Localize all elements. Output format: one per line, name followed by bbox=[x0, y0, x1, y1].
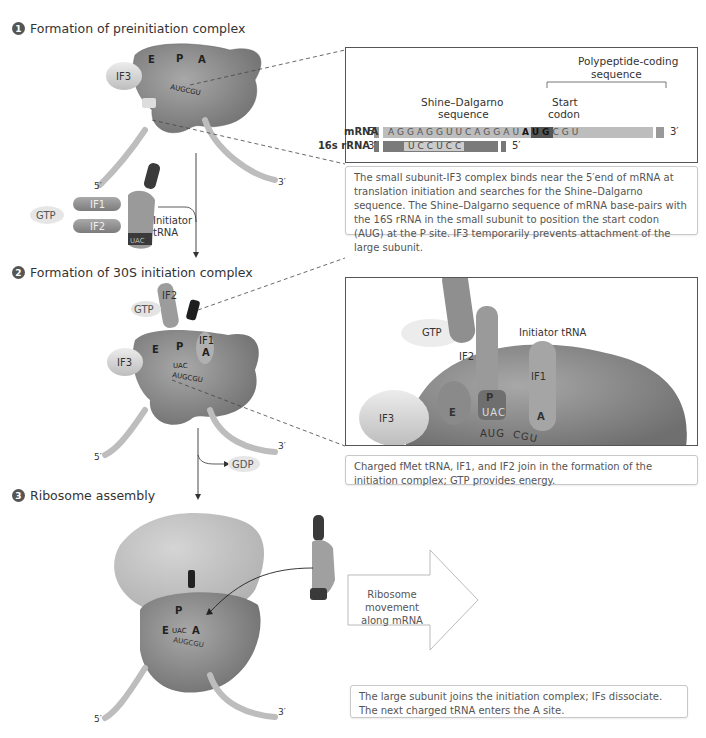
svg-text:5′: 5′ bbox=[94, 714, 102, 724]
inset-anticodon: UAC bbox=[482, 407, 506, 418]
inset-if1-label: IF1 bbox=[531, 371, 546, 382]
svg-text:GDP: GDP bbox=[232, 459, 253, 470]
inset-a-site: A bbox=[537, 411, 545, 422]
svg-text:E: E bbox=[152, 344, 159, 355]
inset-p-site: P bbox=[486, 392, 493, 403]
svg-text:5′: 5′ bbox=[94, 452, 102, 462]
svg-text:P: P bbox=[176, 341, 183, 352]
step-number-badge: 2 bbox=[12, 266, 25, 279]
start-codon-label-2: codon bbox=[548, 108, 580, 120]
svg-text:GTP: GTP bbox=[134, 304, 154, 315]
svg-text:IF2: IF2 bbox=[90, 221, 105, 232]
inset-gtp-label: GTP bbox=[422, 327, 442, 338]
svg-text:GTP: GTP bbox=[36, 210, 56, 221]
svg-text:UAC: UAC bbox=[130, 237, 145, 245]
polypeptide-label: Polypeptide-coding bbox=[578, 55, 678, 67]
step2-caption: Charged fMet tRNA, IF1, and IF2 join in … bbox=[345, 455, 698, 485]
svg-text:tRNA: tRNA bbox=[153, 227, 178, 238]
step-number-badge: 3 bbox=[12, 489, 25, 502]
svg-text:UAC: UAC bbox=[172, 627, 187, 635]
svg-text:5′: 5′ bbox=[94, 181, 102, 191]
svg-text:3′: 3′ bbox=[278, 177, 286, 187]
svg-text:A: A bbox=[198, 54, 206, 65]
step1-ribosome: IF3 E P A AUGCGU 5′ 3′ bbox=[94, 44, 286, 191]
svg-text:A: A bbox=[202, 347, 210, 358]
rrna-label: 16s rRNA bbox=[344, 140, 370, 151]
step3-caption: The large subunit joins the initiation c… bbox=[350, 685, 688, 718]
mrna-sequence: AGGAGGUUCAGGAUAUGCGU bbox=[388, 127, 581, 137]
svg-text:UAC: UAC bbox=[173, 362, 188, 370]
inset-e-site: E bbox=[449, 407, 456, 418]
inset-initiator-label: Initiator tRNA bbox=[519, 327, 586, 338]
svg-text:E: E bbox=[162, 625, 169, 636]
shine-dalgarno-label-2: sequence bbox=[438, 108, 489, 120]
svg-text:E: E bbox=[148, 54, 155, 65]
step-2-title: 2 Formation of 30S initiation complex bbox=[12, 265, 253, 280]
rrna-5-prime: 5′ bbox=[512, 140, 521, 151]
ribosome-movement-label: Ribosome movement along mRNA bbox=[352, 588, 432, 627]
polypeptide-label-2: sequence bbox=[589, 68, 644, 80]
svg-text:Initiator: Initiator bbox=[153, 215, 193, 226]
step-3-title: 3 Ribosome assembly bbox=[12, 488, 155, 503]
mrna-3-prime: 3′ bbox=[670, 126, 679, 137]
step2-inset-panel: GTP IF2 Initiator tRNA IF1 IF3 E P A UAC… bbox=[345, 277, 698, 446]
step-title-text: Formation of 30S initiation complex bbox=[30, 265, 253, 280]
svg-text:P: P bbox=[175, 605, 182, 616]
step-title-text: Ribosome assembly bbox=[30, 488, 155, 503]
inset-if2-label: IF2 bbox=[459, 351, 474, 362]
svg-text:IF1: IF1 bbox=[90, 199, 105, 210]
step1-caption: The small subunit-IF3 complex binds near… bbox=[345, 166, 698, 235]
svg-text:3′: 3′ bbox=[278, 441, 286, 451]
step3-ribosome: P E A UAC AUGCGU 5′ 3′ bbox=[94, 513, 335, 724]
rrna-sequence: UCCUCC bbox=[408, 141, 464, 151]
svg-text:3′: 3′ bbox=[278, 707, 286, 717]
inset-if3-label: IF3 bbox=[379, 413, 394, 424]
svg-text:A: A bbox=[192, 625, 200, 636]
inset-codon-aug: AUG bbox=[480, 428, 505, 439]
mrna-label: mRNA bbox=[344, 126, 370, 137]
start-codon-label: Start bbox=[552, 96, 578, 108]
svg-text:IF3: IF3 bbox=[117, 357, 132, 368]
step2-ribosome: IF2 GTP IF1 A E P IF3 UAC AUGCGU 5′ 3′ bbox=[94, 282, 286, 462]
svg-text:P: P bbox=[176, 53, 183, 64]
shine-dalgarno-label: Shine–Dalgarno bbox=[421, 96, 503, 108]
svg-text:IF3: IF3 bbox=[116, 71, 131, 82]
svg-text:IF2: IF2 bbox=[162, 290, 177, 301]
step1-inset-panel: Polypeptide-coding sequence Shine–Dalgar… bbox=[345, 47, 698, 163]
svg-text:IF1: IF1 bbox=[199, 335, 214, 346]
rrna-3-prime: 3′ bbox=[368, 140, 377, 151]
mrna-5-prime: 5′ bbox=[368, 126, 377, 137]
